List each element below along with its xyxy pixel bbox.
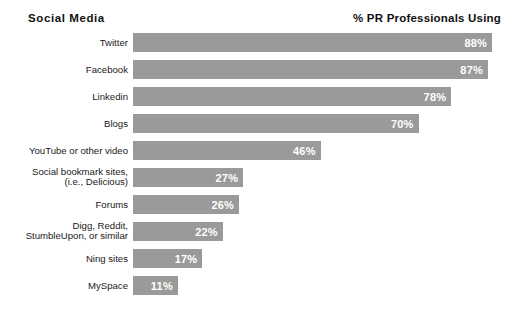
bar-row: Twitter88% bbox=[0, 33, 513, 52]
bar: 27% bbox=[133, 168, 243, 187]
bar-value-label: 78% bbox=[424, 91, 447, 103]
bar-value-label: 11% bbox=[151, 280, 173, 292]
chart-header: Social Media % PR Professionals Using bbox=[0, 8, 513, 28]
bar-category-label: Forums bbox=[2, 199, 128, 210]
bar-value-label: 17% bbox=[175, 253, 198, 265]
bar-row: Social bookmark sites, (i.e., Delicious)… bbox=[0, 168, 513, 187]
bar: 26% bbox=[133, 195, 239, 214]
bar-row: Linkedin78% bbox=[0, 87, 513, 106]
bar-value-label: 88% bbox=[464, 37, 487, 49]
bar-row: Digg, Reddit, StumbleUpon, or similar22% bbox=[0, 222, 513, 241]
bar: 87% bbox=[133, 60, 488, 79]
bar-chart: Social Media % PR Professionals Using Tw… bbox=[0, 0, 513, 323]
bar: 11% bbox=[133, 276, 178, 295]
bar-category-label: Facebook bbox=[2, 64, 128, 75]
bar-category-label: Social bookmark sites, (i.e., Delicious) bbox=[2, 167, 128, 188]
bar: 78% bbox=[133, 87, 451, 106]
bar-value-label: 26% bbox=[211, 199, 234, 211]
bar: 88% bbox=[133, 33, 492, 52]
bar-category-label: Linkedin bbox=[2, 91, 128, 102]
bar: 46% bbox=[133, 141, 321, 160]
bar-category-label: Ning sites bbox=[2, 253, 128, 264]
plot-area: Twitter88%Facebook87%Linkedin78%Blogs70%… bbox=[0, 33, 513, 319]
chart-value-axis-title: % PR Professionals Using bbox=[353, 12, 501, 24]
bar-category-label: Digg, Reddit, StumbleUpon, or similar bbox=[2, 221, 128, 242]
bar-row: Facebook87% bbox=[0, 60, 513, 79]
bar-value-label: 22% bbox=[195, 226, 218, 238]
bar-row: YouTube or other video46% bbox=[0, 141, 513, 160]
bar-value-label: 27% bbox=[216, 172, 239, 184]
bar: 17% bbox=[133, 249, 202, 268]
bar-category-label: Twitter bbox=[2, 37, 128, 48]
bar-row: Forums26% bbox=[0, 195, 513, 214]
bar: 22% bbox=[133, 222, 223, 241]
bar-row: Ning sites17% bbox=[0, 249, 513, 268]
bar-value-label: 70% bbox=[391, 118, 414, 130]
chart-category-axis-title: Social Media bbox=[28, 12, 105, 24]
bar-category-label: YouTube or other video bbox=[2, 145, 128, 156]
bar-row: Blogs70% bbox=[0, 114, 513, 133]
bar-row: MySpace11% bbox=[0, 276, 513, 295]
bar-value-label: 46% bbox=[293, 145, 316, 157]
bar: 70% bbox=[133, 114, 419, 133]
bar-category-label: Blogs bbox=[2, 118, 128, 129]
bar-value-label: 87% bbox=[460, 64, 483, 76]
bar-category-label: MySpace bbox=[2, 280, 128, 291]
